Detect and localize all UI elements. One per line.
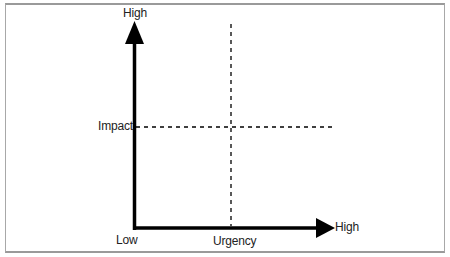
matrix-graphic (0, 0, 450, 257)
x-axis-high-label: High (335, 220, 359, 234)
y-axis-label: Impact (98, 119, 133, 133)
y-arrow-head-icon (125, 21, 144, 44)
x-axis-label: Urgency (213, 234, 256, 248)
y-axis-high-label: High (123, 6, 147, 20)
origin-low-label: Low (116, 233, 137, 247)
x-arrow-head-icon (316, 218, 335, 238)
